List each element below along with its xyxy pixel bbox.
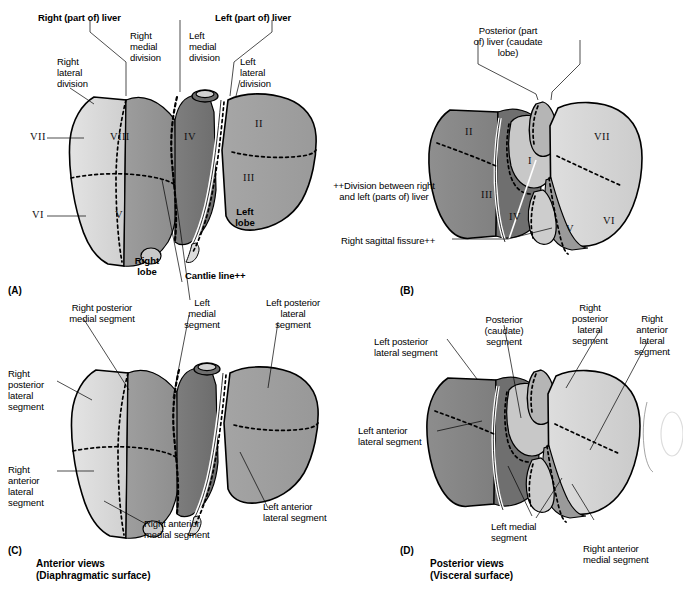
label-c-left-anterior-lateral-segment: Left anterior lateral segment [263,501,326,523]
label-c-right-posterior-medial-segment: Right posterior medial segment [43,302,161,324]
segment-label-b-V: V [566,223,574,234]
segment-label-b-III: III [481,189,493,200]
caption-posterior-views: Posterior views (Visceral surface) [430,558,513,582]
label-left-lobe: Left lobe [223,206,267,228]
segment-label-b-I: I [528,155,532,166]
label-d-posterior-caudate-segment: Posterior (caudate) segment [468,314,540,347]
label-right-lobe: Right lobe [123,255,171,277]
panel-mark-b: (B) [400,285,414,296]
label-c-left-medial-segment: Left medial segment [178,297,226,330]
segment-label-b-II: II [465,126,473,137]
label-d-left-anterior-lateral-segment: Left anterior lateral segment [358,425,421,447]
label-d-right-anterior-lateral-segment: Right anterior lateral segment [624,313,680,357]
panel-b-liver [429,102,642,254]
label-right-part-of-liver: Right (part of) liver [38,12,121,23]
label-d-right-posterior-lateral-segment: Right posterior lateral segment [558,302,622,346]
segment-label-b-VI: VI [603,215,615,226]
segment-label-b-VII: VII [594,131,610,142]
segment-label-a-VI: VI [32,209,44,220]
label-c-right-anterior-medial-segment: Right anterior medial segment [144,518,210,540]
label-right-lateral-division: Right lateral division [57,56,88,89]
label-c-right-anterior-lateral-segment: Right anterior lateral segment [8,464,44,508]
segment-label-a-VII: VII [30,131,46,142]
segment-label-a-II: II [255,118,263,129]
label-cantlie-line: Cantlie line++ [185,270,245,281]
label-c-right-posterior-lateral-segment: Right posterior lateral segment [8,368,44,412]
segment-label-a-VIII: VIII [110,131,130,142]
label-d-left-posterior-lateral-segment: Left posterior lateral segment [374,336,437,358]
label-left-medial-division: Left medial division [189,30,220,63]
label-right-medial-division: Right medial division [130,30,161,63]
page-edge-artifact [643,402,683,472]
label-left-part-of-liver: Left (part of) liver [215,12,291,23]
panel-a-illustration [0,0,683,593]
segment-label-a-IV: IV [184,131,196,142]
segment-label-a-V: V [115,209,123,220]
panel-mark-c: (C) [8,545,22,556]
label-c-left-posterior-lateral-segment: Left posterior lateral segment [251,297,335,330]
label-right-sagittal-fissure: Right sagittal fissure++ [341,235,435,246]
label-d-right-anterior-medial-segment: Right anterior medial segment [583,543,649,565]
panel-d-liver [427,370,640,522]
panel-mark-a: (A) [8,285,22,296]
segment-label-b-IV: IV [509,211,521,222]
label-left-lateral-division: Left lateral division [240,56,271,89]
label-posterior-caudate-lobe: Posterior (part of) liver (caudate lobe) [452,25,564,58]
footnote-division-between-right-and-left: ++Division between right and left (parts… [306,180,462,202]
panel-a-liver [69,90,316,266]
caption-anterior-views: Anterior views (Diaphragmatic surface) [36,558,150,582]
panel-mark-d: (D) [400,545,414,556]
liver-segments-figure: Right (part of) liver Left (part of) liv… [0,0,683,593]
segment-label-a-III: III [243,172,255,183]
label-d-left-medial-segment: Left medial segment [491,521,536,543]
